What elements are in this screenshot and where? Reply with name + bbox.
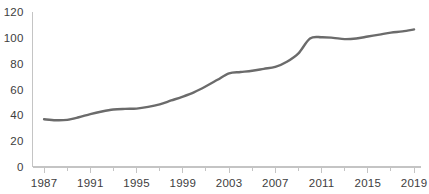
y-axis-tick-label: 20 bbox=[10, 135, 23, 147]
y-axis-tick-label: 0 bbox=[17, 161, 24, 173]
y-axis: 020406080100120 bbox=[4, 6, 33, 173]
x-axis-tick-label: 1991 bbox=[77, 177, 103, 189]
x-axis: 198719911995199920032007201120152019 bbox=[31, 167, 427, 189]
y-axis-tick-label: 120 bbox=[4, 6, 24, 18]
x-axis-tick-label: 1987 bbox=[31, 177, 57, 189]
y-axis-tick-label: 100 bbox=[4, 32, 24, 44]
x-axis-tick-label: 1999 bbox=[170, 177, 196, 189]
data-series-group bbox=[44, 29, 414, 120]
line-chart: 020406080100120 198719911995199920032007… bbox=[0, 0, 429, 194]
chart-canvas: 020406080100120 198719911995199920032007… bbox=[0, 0, 429, 194]
x-axis-tick-label: 2011 bbox=[309, 177, 335, 189]
x-axis-tick-label: 2003 bbox=[216, 177, 242, 189]
x-axis-tick-label: 2019 bbox=[401, 177, 427, 189]
y-axis-tick-label: 80 bbox=[10, 58, 23, 70]
x-axis-tick-label: 2015 bbox=[355, 177, 381, 189]
x-axis-tick-label: 1995 bbox=[123, 177, 149, 189]
y-axis-tick-label: 40 bbox=[10, 109, 23, 121]
x-axis-tick-label: 2007 bbox=[262, 177, 288, 189]
series-line bbox=[44, 29, 414, 120]
y-axis-tick-label: 60 bbox=[10, 84, 23, 96]
